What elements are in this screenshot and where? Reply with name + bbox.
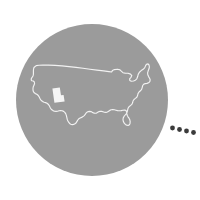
trailing-dot-1 bbox=[170, 126, 175, 131]
map-badge-graphic bbox=[0, 0, 200, 200]
trailing-dot-2 bbox=[177, 127, 182, 132]
illustration-canvas bbox=[0, 0, 200, 200]
badge-circle bbox=[16, 24, 168, 176]
trailing-dot-4 bbox=[191, 130, 196, 135]
trailing-dot-3 bbox=[184, 129, 189, 134]
trailing-dots bbox=[170, 126, 196, 135]
